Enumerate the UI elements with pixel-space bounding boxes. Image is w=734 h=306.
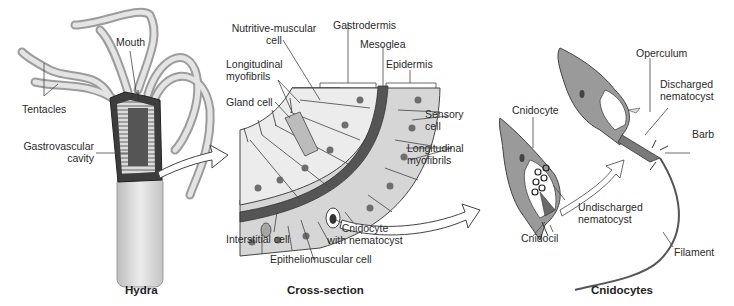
label-epitheliomuscular-cell: Epitheliomuscular cell (270, 253, 372, 265)
label-gastrovascular-line1: Gastrovascular (22, 140, 94, 152)
label-longitudinal-myofibrils-right: Longitudinal myofibrils (407, 142, 464, 166)
label-undischarged-line2: nematocyst (578, 213, 643, 225)
label-sensory-cell: Sensory cell (425, 108, 464, 132)
label-cnidocyte-with-nematocyst: Cnidocyte with nematocyst (320, 222, 410, 246)
label-discharged-line1: Discharged (660, 78, 714, 90)
label-epidermis: Epidermis (386, 58, 433, 70)
undischarged-cnidocyte (499, 118, 560, 240)
label-mesoglea: Mesoglea (360, 38, 406, 50)
label-nutritive-line1: Nutritive-muscular (226, 22, 322, 34)
label-cnidocyte-nem-line1: Cnidocyte (320, 222, 410, 234)
layer-brackets (320, 22, 436, 88)
label-gland-cell: Gland cell (226, 96, 273, 108)
label-sensory-line1: Sensory (425, 108, 464, 120)
label-long-myo-left-line2: myofibrils (226, 70, 283, 82)
label-discharged-line2: nematocyst (660, 90, 714, 102)
label-long-myo-left-line1: Longitudinal (226, 58, 283, 70)
label-cnidocyte-nem-line2: with nematocyst (320, 234, 410, 246)
arrow-hydra-to-section (158, 145, 228, 178)
label-nutritive-muscular-cell: Nutritive-muscular cell (226, 22, 322, 46)
label-cnidocyte: Cnidocyte (512, 104, 559, 116)
label-barb: Barb (692, 128, 714, 140)
label-gastrodermis: Gastrodermis (333, 19, 396, 31)
label-gastrovascular-cavity: Gastrovascular cavity (22, 140, 94, 164)
label-filament: Filament (674, 246, 714, 258)
label-undischarged-line1: Undischarged (578, 201, 643, 213)
label-long-myo-right-line1: Longitudinal (407, 142, 464, 154)
label-cnidocil: Cnidocil (521, 232, 558, 244)
label-nutritive-line2: cell (226, 34, 322, 46)
label-tentacles: Tentacles (22, 103, 66, 115)
caption-cnidocytes: Cnidocytes (591, 284, 653, 296)
hydra-diagram: Mouth Tentacles Gastrovascular cavity Hy… (0, 0, 734, 306)
label-mouth: Mouth (116, 36, 145, 48)
label-sensory-line2: cell (425, 120, 464, 132)
caption-cross-section: Cross-section (287, 284, 364, 296)
label-operculum: Operculum (636, 47, 687, 59)
caption-hydra: Hydra (125, 284, 158, 296)
label-long-myo-right-line2: myofibrils (407, 154, 464, 166)
label-longitudinal-myofibrils-left: Longitudinal myofibrils (226, 58, 283, 82)
label-discharged-nematocyst: Discharged nematocyst (660, 78, 714, 102)
label-undischarged-nematocyst: Undischarged nematocyst (578, 201, 643, 225)
label-interstitial-cell: Interstitial cell (226, 233, 290, 245)
label-gastrovascular-line2: cavity (22, 152, 94, 164)
